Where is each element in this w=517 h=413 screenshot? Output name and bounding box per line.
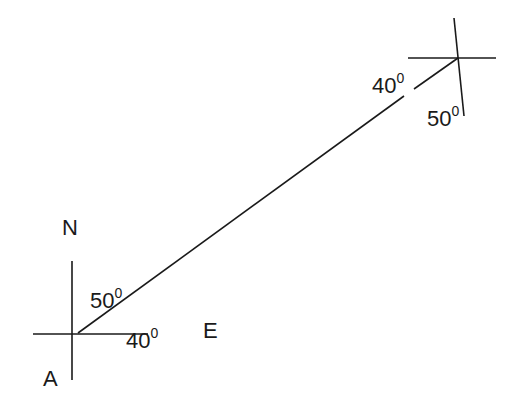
a-to-b-line-upper — [414, 58, 458, 89]
angle-label-b-south: 500 — [427, 108, 459, 130]
degree-mark: 0 — [451, 103, 459, 119]
a-to-b-line-lower — [78, 96, 404, 333]
degree-mark: 0 — [396, 70, 404, 86]
east-label: E — [203, 320, 218, 342]
degree-mark: 0 — [114, 285, 122, 301]
angle-label-a-east: 400 — [126, 330, 158, 352]
b-vertical-axis — [454, 18, 464, 116]
point-a-label: A — [43, 368, 58, 390]
angle-label-a-north: 500 — [90, 290, 122, 312]
bearing-diagram-canvas — [0, 0, 517, 413]
north-label: N — [62, 217, 78, 239]
degree-mark: 0 — [150, 325, 158, 341]
angle-label-b-west: 400 — [372, 75, 404, 97]
